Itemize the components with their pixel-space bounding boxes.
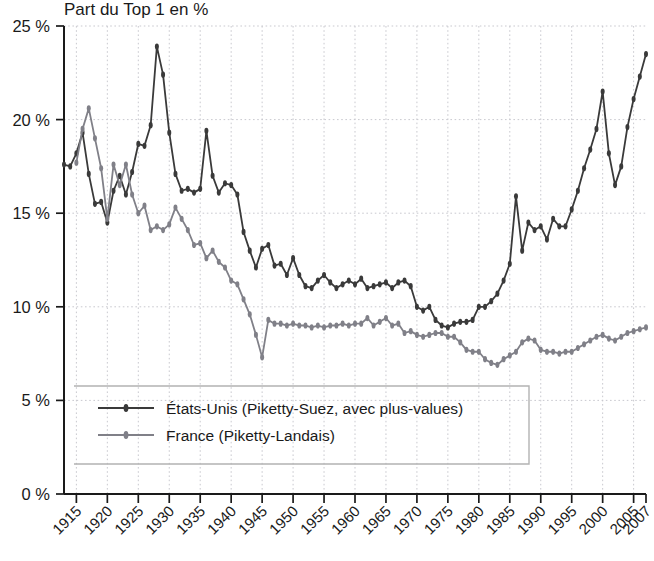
data-point-marker xyxy=(446,324,450,330)
y-axis-tick-label: 15 % xyxy=(12,204,50,222)
data-point-marker xyxy=(409,283,413,289)
data-point-marker xyxy=(186,186,190,192)
data-point-marker xyxy=(149,122,153,128)
data-point-marker xyxy=(291,255,295,261)
data-point-marker xyxy=(520,339,524,345)
data-point-marker xyxy=(161,72,165,78)
data-point-marker xyxy=(632,96,636,102)
data-point-marker xyxy=(489,360,493,366)
data-point-marker xyxy=(464,347,468,353)
data-point-marker xyxy=(322,272,326,278)
data-point-marker xyxy=(186,227,190,233)
data-point-marker xyxy=(576,345,580,351)
data-point-marker xyxy=(198,186,202,192)
data-point-marker xyxy=(458,319,462,325)
data-point-marker xyxy=(508,352,512,358)
legend-item-label: États-Unis (Piketty-Suez, avec plus-valu… xyxy=(166,400,463,417)
data-point-marker xyxy=(173,171,177,177)
data-point-marker xyxy=(198,240,202,246)
data-point-marker xyxy=(433,317,437,323)
data-point-marker xyxy=(390,322,394,328)
data-point-marker xyxy=(526,336,530,342)
data-point-marker xyxy=(118,182,122,188)
data-point-marker xyxy=(279,261,283,267)
data-point-marker xyxy=(421,307,425,313)
data-point-marker xyxy=(74,160,78,166)
data-point-marker xyxy=(93,135,97,141)
data-point-marker xyxy=(112,161,116,167)
data-point-marker xyxy=(235,281,239,287)
data-point-marker xyxy=(316,277,320,283)
data-point-marker xyxy=(582,165,586,171)
data-point-marker xyxy=(471,349,475,355)
data-point-marker xyxy=(279,321,283,327)
data-point-marker xyxy=(223,264,227,270)
data-point-marker xyxy=(526,219,530,225)
data-point-marker xyxy=(248,311,252,317)
data-point-marker xyxy=(502,277,506,283)
data-point-marker xyxy=(403,277,407,283)
data-point-marker xyxy=(644,51,648,57)
data-point-marker xyxy=(551,349,555,355)
data-point-marker xyxy=(458,339,462,345)
data-point-marker xyxy=(229,182,233,188)
data-point-marker xyxy=(149,227,153,233)
data-point-marker xyxy=(359,276,363,282)
data-point-marker xyxy=(87,171,91,177)
data-point-marker xyxy=(644,324,648,330)
data-point-marker xyxy=(229,277,233,283)
legend-item-label: France (Piketty-Landais) xyxy=(166,427,335,444)
data-point-marker xyxy=(464,319,468,325)
data-point-marker xyxy=(328,279,332,285)
data-point-marker xyxy=(495,362,499,368)
legend-swatch-marker xyxy=(124,404,129,412)
data-point-marker xyxy=(409,328,413,334)
data-point-marker xyxy=(508,261,512,267)
chart-title: Part du Top 1 en % xyxy=(64,0,208,19)
data-point-marker xyxy=(489,298,493,304)
data-point-marker xyxy=(142,143,146,149)
legend-swatch-marker xyxy=(124,431,129,439)
data-point-marker xyxy=(297,322,301,328)
data-point-marker xyxy=(607,336,611,342)
data-point-marker xyxy=(564,349,568,355)
data-point-marker xyxy=(638,73,642,79)
data-point-marker xyxy=(136,210,140,216)
data-point-marker xyxy=(514,193,518,199)
data-point-marker xyxy=(303,283,307,289)
data-point-marker xyxy=(446,334,450,340)
data-point-marker xyxy=(427,304,431,310)
data-point-marker xyxy=(421,334,425,340)
data-point-marker xyxy=(192,190,196,196)
data-point-marker xyxy=(477,304,481,310)
data-point-marker xyxy=(557,223,561,229)
data-point-marker xyxy=(99,199,103,205)
data-point-marker xyxy=(235,191,239,197)
data-point-marker xyxy=(378,319,382,325)
data-point-marker xyxy=(570,349,574,355)
data-point-marker xyxy=(514,349,518,355)
data-point-marker xyxy=(303,322,307,328)
data-point-marker xyxy=(570,206,574,212)
data-point-marker xyxy=(161,227,165,233)
data-point-marker xyxy=(291,321,295,327)
data-point-marker xyxy=(396,321,400,327)
data-point-marker xyxy=(93,201,97,207)
data-point-marker xyxy=(62,161,66,167)
data-point-marker xyxy=(217,259,221,265)
data-point-marker xyxy=(254,332,258,338)
data-point-marker xyxy=(260,246,264,252)
data-point-marker xyxy=(248,248,252,254)
data-point-marker xyxy=(273,321,277,327)
data-point-marker xyxy=(365,315,369,321)
data-point-marker xyxy=(588,146,592,152)
data-point-marker xyxy=(180,216,184,222)
data-point-marker xyxy=(576,188,580,194)
y-axis-tick-label: 20 % xyxy=(12,111,50,129)
data-point-marker xyxy=(254,264,258,270)
data-point-marker xyxy=(440,330,444,336)
data-point-marker xyxy=(173,204,177,210)
data-point-marker xyxy=(545,349,549,355)
data-point-marker xyxy=(310,324,314,330)
data-point-marker xyxy=(396,279,400,285)
